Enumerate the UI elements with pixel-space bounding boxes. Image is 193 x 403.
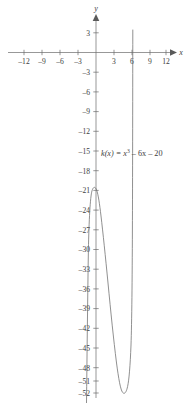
y-tick-label--24: –24 bbox=[78, 206, 91, 215]
x-axis-label: x bbox=[178, 48, 183, 57]
x-tick-label-3: 3 bbox=[112, 57, 116, 66]
svg-text:k(x) = x3 – 6x – 20: k(x) = x3 – 6x – 20 bbox=[101, 148, 163, 158]
x-tick-label--6: –6 bbox=[55, 57, 64, 66]
y-tick-label--3: –3 bbox=[81, 68, 90, 77]
x-tick-label--9: –9 bbox=[37, 57, 46, 66]
y-tick-label--15: –15 bbox=[78, 147, 91, 156]
x-tick-label--12: –12 bbox=[17, 57, 30, 66]
y-tick-label--18: –18 bbox=[78, 167, 91, 176]
y-tick-label--21: –21 bbox=[78, 186, 91, 195]
y-tick-label--51: –51 bbox=[78, 377, 91, 386]
function-curve-group bbox=[87, 30, 133, 403]
cubic-function-graph: –12 –9 –6 –3 3 6 9 12 x y bbox=[0, 0, 193, 403]
y-axis-label: y bbox=[93, 4, 98, 13]
y-tick-label--39: –39 bbox=[78, 304, 91, 313]
y-tick-label-3: 3 bbox=[86, 29, 90, 38]
graph-canvas: –12 –9 –6 –3 3 6 9 12 x y bbox=[0, 0, 193, 403]
y-tick-label--9: –9 bbox=[81, 107, 90, 116]
y-tick-label--48: –48 bbox=[78, 364, 91, 373]
function-label-prefix: k(x) = x bbox=[101, 149, 127, 158]
y-tick-label--52: –52 bbox=[78, 389, 91, 398]
y-tick-label--42: –42 bbox=[78, 324, 91, 333]
x-axis-group: –12 –9 –6 –3 3 6 9 12 x bbox=[8, 48, 183, 66]
y-tick-label--6: –6 bbox=[81, 88, 90, 97]
y-tick-label--36: –36 bbox=[78, 285, 91, 294]
x-tick-label--3: –3 bbox=[73, 57, 82, 66]
x-tick-label-6: 6 bbox=[130, 57, 134, 66]
x-axis-arrowhead bbox=[170, 49, 177, 56]
x-tick-label-9: 9 bbox=[148, 57, 152, 66]
function-curve-k bbox=[87, 30, 133, 403]
function-label-suffix: – 6x – 20 bbox=[130, 149, 163, 158]
x-tick-label-12: 12 bbox=[162, 57, 170, 66]
y-tick-label--12: –12 bbox=[78, 127, 91, 136]
y-tick-label--45: –45 bbox=[78, 344, 91, 353]
y-axis-arrowhead bbox=[93, 14, 100, 21]
y-tick-label--27: –27 bbox=[78, 226, 91, 235]
function-equation-label: k(x) = x3 – 6x – 20 bbox=[101, 148, 163, 158]
